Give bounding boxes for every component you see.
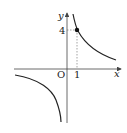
origin-label: O: [57, 69, 65, 80]
y-tick-label: 4: [59, 25, 65, 36]
point-1-4: [75, 28, 79, 32]
curve-upper-branch: [73, 14, 116, 60]
hyperbola-graph: y x O 1 4: [0, 0, 127, 133]
x-axis-label: x: [114, 68, 120, 79]
curve-lower-branch: [15, 75, 61, 122]
y-axis-label: y: [57, 10, 64, 21]
x-tick-label: 1: [74, 69, 80, 80]
